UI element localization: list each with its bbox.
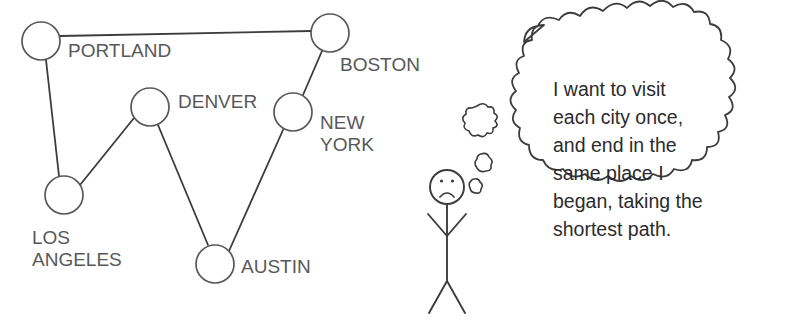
diagram-canvas: PORTLAND BOSTON DENVER NEW YORK LOS ANGE… <box>0 0 785 324</box>
bubble-line-2: each city once, <box>553 106 683 128</box>
bubble-line-5: began, taking the <box>553 190 703 212</box>
figure-arm-left <box>428 214 447 236</box>
thought-puff-medium-icon <box>475 153 492 171</box>
bubble-line-1: I want to visit <box>553 78 666 100</box>
thought-puff-large-icon <box>463 104 498 137</box>
label-portland: PORTLAND <box>68 40 171 61</box>
figure-head-icon <box>430 170 464 204</box>
label-los-angeles-line-1: LOS <box>32 227 70 248</box>
figure-leg-right <box>447 281 465 313</box>
label-los-angeles: LOS ANGELES <box>32 227 122 270</box>
node-austin[interactable] <box>196 245 234 283</box>
figure-eye-right-icon <box>451 179 454 182</box>
edge-denver-austin <box>158 125 208 245</box>
label-los-angeles-line-2: ANGELES <box>32 249 122 270</box>
edge-newyork-boston <box>303 51 322 95</box>
sad-stick-figure <box>428 170 466 313</box>
edge-portland-losangeles <box>46 60 59 176</box>
city-labels: PORTLAND BOSTON DENVER NEW YORK LOS ANGE… <box>32 40 420 277</box>
edge-austin-newyork <box>229 130 283 251</box>
label-new-york-line-1: NEW <box>320 112 364 133</box>
label-boston: BOSTON <box>340 54 420 75</box>
node-boston[interactable] <box>311 14 349 52</box>
tsp-illustration: PORTLAND BOSTON DENVER NEW YORK LOS ANGE… <box>0 0 785 324</box>
graph-edges <box>46 31 322 251</box>
thought-puff-small-icon <box>469 179 482 193</box>
label-austin: AUSTIN <box>241 256 311 277</box>
label-new-york-line-2: YORK <box>320 134 374 155</box>
label-new-york: NEW YORK <box>320 112 374 155</box>
figure-arm-right <box>447 214 466 236</box>
node-denver[interactable] <box>131 88 169 126</box>
bubble-line-6: shortest path. <box>553 218 671 240</box>
label-denver: DENVER <box>178 91 257 112</box>
bubble-line-4: same place I <box>553 162 664 184</box>
node-portland[interactable] <box>22 22 60 60</box>
thought-puffs <box>463 104 498 193</box>
bubble-line-3: and end in the <box>553 134 677 156</box>
figure-eye-left-icon <box>440 179 443 182</box>
edge-portland-boston <box>60 31 311 36</box>
node-new-york[interactable] <box>274 93 312 131</box>
figure-leg-left <box>429 281 447 313</box>
edge-losangeles-denver <box>80 118 134 185</box>
node-los-angeles[interactable] <box>45 176 83 214</box>
